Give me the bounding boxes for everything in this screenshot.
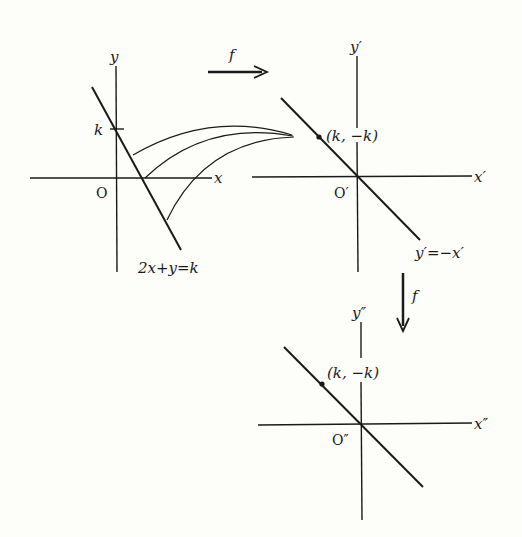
map-label-f: f bbox=[411, 287, 420, 305]
y-axis bbox=[116, 66, 117, 272]
arrow-f-down: f bbox=[397, 273, 420, 331]
origin-double-prime-label: O″ bbox=[332, 432, 349, 448]
point-label: (k, −k) bbox=[326, 127, 378, 145]
x-double-prime-axis-label: x″ bbox=[474, 415, 488, 433]
arrow-f-right: f bbox=[208, 46, 267, 78]
mapping-arc-1 bbox=[133, 126, 292, 155]
line-equation-label: 2x+y=k bbox=[137, 259, 199, 277]
x-prime-axis bbox=[252, 176, 472, 177]
panel-image-of-image: y″ x″ O″ (k, −k) bbox=[258, 304, 488, 520]
y-double-prime-axis-label: y″ bbox=[351, 304, 366, 322]
mapping-diagram: y x O k 2x+y=k f y′ x′ O′ (k, −k) y′=−x′… bbox=[0, 0, 522, 537]
line-2x-plus-y-eq-k bbox=[92, 87, 181, 250]
panel-image: y′ x′ O′ (k, −k) y′=−x′ bbox=[252, 38, 486, 272]
x-axis-label: x bbox=[214, 169, 223, 187]
point-k-minus-k bbox=[319, 381, 324, 386]
origin-prime-label: O′ bbox=[334, 185, 349, 201]
y-prime-axis-lower bbox=[357, 142, 358, 272]
y-double-prime-axis-lower bbox=[361, 382, 362, 520]
k-tick-label: k bbox=[94, 121, 103, 139]
line-y-prime-eq-minus-x-prime bbox=[281, 98, 420, 240]
y-axis-label: y bbox=[109, 48, 119, 66]
line-equation-label: y′=−x′ bbox=[414, 244, 464, 262]
point-k-minus-k bbox=[316, 134, 321, 139]
point-label: (k, −k) bbox=[327, 364, 379, 382]
panel-original: y x O k 2x+y=k bbox=[30, 48, 294, 277]
map-label-f: f bbox=[228, 46, 237, 64]
y-prime-axis-label: y′ bbox=[349, 38, 362, 56]
origin-label: O bbox=[96, 185, 107, 201]
x-double-prime-axis bbox=[258, 423, 472, 425]
x-prime-axis-label: x′ bbox=[474, 168, 486, 186]
